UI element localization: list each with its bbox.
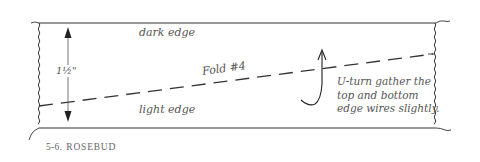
height-measure-label: 1½" (56, 65, 77, 77)
measure-arrowhead-down (65, 111, 72, 122)
rosebud-diagram: dark edge light edge Fold #4 1½" U-turn … (0, 0, 480, 162)
caption-title: ROSEBUD (66, 142, 116, 152)
figure-caption: 5-6.ROSEBUD (46, 142, 116, 152)
instruction-note: U-turn gather the top and bottom edge wi… (337, 75, 447, 116)
wire-curl-top-right (436, 21, 450, 23)
u-turn-arrow-icon (301, 52, 322, 105)
dark-edge-label: dark edge (139, 27, 195, 38)
wire-curl-bottom-right (436, 128, 451, 131)
measure-arrowhead-up (65, 27, 72, 38)
left-wavy-edge (38, 23, 40, 124)
caption-number: 5-6. (46, 142, 62, 152)
wire-curl-top-left (31, 22, 39, 23)
light-edge-label: light edge (139, 104, 195, 115)
wire-curl-bottom-left (29, 128, 39, 140)
